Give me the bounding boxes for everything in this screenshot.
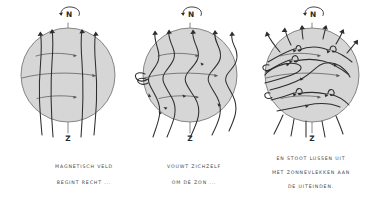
solar-magnetic-field-diagram: N Z MAGNETISCH VELD BEGINT RECHT ... — [0, 0, 381, 205]
panel-1-north-pole-label: N — [66, 10, 72, 19]
panel-2: N — [135, 7, 237, 185]
panel-2-north-pole-label: N — [188, 10, 194, 19]
panel-3-north-pole-label: N — [310, 10, 316, 19]
panel-1-caption-line-2: BEGINT RECHT ... — [57, 180, 112, 185]
panel-2-caption-line-1: VOUWT ZICHZELF — [167, 164, 221, 169]
panel-1-south-pole-label: Z — [65, 134, 71, 143]
panel-2-caption-line-2: OM DE ZON ... — [172, 180, 217, 185]
panel-1-caption-line-1: MAGNETISCH VELD — [55, 164, 113, 169]
panel-3-caption-line-1: EN STOOT LUSSEN UIT — [276, 156, 345, 161]
panel-3-caption-line-3: DE UITEINDEN. — [288, 184, 334, 189]
panel-1: N Z MAGNETISCH VELD BEGINT RECHT ... — [21, 7, 115, 185]
panel-3-caption-line-2: MET ZONNEVLEKKEN AAN — [272, 170, 350, 175]
panel-3: N — [263, 7, 359, 189]
panel-3-south-pole-label: Z — [309, 134, 315, 143]
panel-2-south-pole-label: Z — [187, 134, 193, 143]
